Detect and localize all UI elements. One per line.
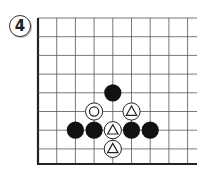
black-stone[interactable] (142, 122, 159, 139)
black-stone[interactable] (86, 122, 103, 139)
go-board[interactable] (0, 0, 204, 172)
black-stone[interactable] (104, 84, 121, 101)
black-stone[interactable] (67, 122, 84, 139)
white-stone[interactable] (104, 140, 121, 157)
white-stone[interactable] (123, 103, 140, 120)
black-stone[interactable] (123, 122, 140, 139)
white-stone[interactable] (86, 103, 103, 120)
white-stone[interactable] (104, 122, 121, 139)
